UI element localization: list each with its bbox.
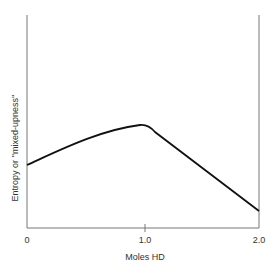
- x-tick-label-1: 1.0: [139, 235, 152, 245]
- x-tick-label-0: 0: [24, 235, 29, 245]
- x-tick-label-2: 2.0: [253, 235, 266, 245]
- x-axis-label: Moles HD: [125, 252, 165, 262]
- y-axis-label: Entropy or ''mixed-upness'': [10, 94, 20, 201]
- chart: 0 1.0 2.0 Moles HD Entropy or ''mixed-up…: [0, 0, 277, 277]
- entropy-curve: [27, 125, 259, 211]
